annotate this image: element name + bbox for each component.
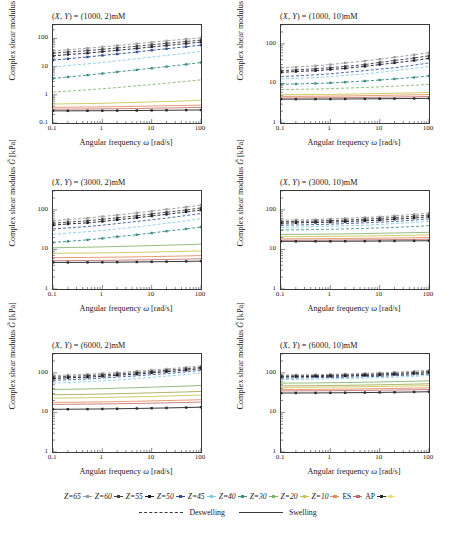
legend-linestyle-label: Deswelling [189,508,225,517]
series-line-Z30 [281,384,429,386]
chart-panel-top-left: (X, Y) = (1000, 2)mMComplex shear modulu… [0,4,228,166]
legend-item-Z65[interactable]: Z=65 [61,492,92,501]
series-line-Z40 [53,227,201,243]
series-marker [116,47,118,49]
series-line-AP [53,261,201,262]
series-marker [185,211,187,213]
series-marker [281,222,282,224]
series-marker [428,55,429,57]
series-marker [185,38,187,40]
series-marker [393,59,395,61]
series-line-Z40 [281,76,429,84]
series-marker [378,63,380,65]
legend-label: Z=45 [185,492,207,501]
series-marker [295,70,297,72]
series-marker [344,98,346,100]
series-line-Z40 [281,381,429,383]
series-marker [136,215,138,217]
series-marker [185,63,187,65]
series-marker [150,232,152,234]
series-marker [185,206,187,208]
legend-item-Z30[interactable]: Z=30 [247,492,278,501]
series-marker [378,240,380,242]
legend-item-Z20[interactable]: Z=20 [278,492,309,501]
x-tick-label: 0.1 [40,290,64,298]
series-marker [136,43,138,45]
series-marker [136,217,138,219]
series-marker [86,49,88,51]
x-tick-label: 10 [139,290,163,298]
series-marker [67,51,69,53]
x-axis-label: Angular frequency ω [rad/s] [52,304,200,313]
legend-item-Z60[interactable]: Z=60 [92,492,123,501]
series-marker [53,261,54,263]
series-marker [165,65,167,67]
legend-item-Z55[interactable]: Z=55 [123,492,154,501]
y-tick-label: 10 [254,78,276,86]
legend-label: Z=40 [216,492,238,501]
series-marker [428,216,429,218]
legend-item-Z50[interactable]: Z=50 [154,492,185,501]
legend-marker-icon [207,492,216,501]
series-marker [200,209,201,211]
legend-item-ES[interactable]: ES [339,492,362,501]
chart-panel-bottom-left: (X, Y) = (6000, 2)mMComplex shear modulu… [0,333,228,495]
series-marker [101,54,103,56]
x-axis-label: Angular frequency ω [rad/s] [280,138,428,147]
series-marker [295,222,297,224]
series-marker [101,46,103,48]
series-marker [150,213,152,215]
series-marker [67,261,69,263]
series-marker [53,77,54,79]
plot-area [52,190,202,290]
x-tick-label: 0.1 [268,453,292,461]
legend-label: Z=10 [309,492,331,501]
x-tick-label: 100 [416,290,440,298]
legend-linestyle-swelling[interactable]: Swelling [239,508,317,517]
series-marker [150,215,152,217]
series-line-Z50 [53,45,201,60]
series-marker [67,240,69,242]
series-line-Z30 [53,391,201,394]
series-marker [116,235,118,237]
series-marker [150,261,152,263]
series-marker [86,376,88,378]
series-marker [185,369,187,371]
series-marker [295,240,297,242]
legend-item-Z45[interactable]: Z=45 [185,492,216,501]
panel-title: (X, Y) = (6000, 10)mM [280,341,358,350]
series-line-Z30 [281,84,429,89]
series-marker [413,391,415,393]
legend-item[interactable] [386,492,395,501]
legend-linestyle-deswelling[interactable]: Deswelling [139,508,225,517]
series-marker [53,59,54,61]
series-line-Z10 [53,256,201,258]
y-tick-label: 100 [254,39,276,47]
series-marker [413,54,415,56]
series-marker [185,228,187,230]
series-marker [295,83,297,85]
x-tick-label: 10 [139,124,163,132]
series-marker [165,40,167,42]
series-marker [428,240,429,242]
series-marker [200,406,201,408]
series-marker [101,218,103,220]
legend-item-AP[interactable]: AP [362,492,386,501]
plot-area [280,190,430,290]
x-tick-label: 1 [317,124,341,132]
series-marker [136,373,138,375]
series-marker [200,109,201,111]
series-marker [200,61,201,63]
series-marker [101,50,103,52]
series-marker [344,240,346,242]
series-marker [329,82,331,84]
legend-item-Z10[interactable]: Z=10 [309,492,340,501]
y-tick-label: 10 [254,244,276,252]
chart-panel-bottom-right: (X, Y) = (6000, 10)mMComplex shear modul… [228,333,456,495]
legend-item-Z40[interactable]: Z=40 [216,492,247,501]
series-marker [136,261,138,263]
series-line-Z65 [281,53,429,68]
series-line-Z20 [53,395,201,398]
series-marker [200,260,201,262]
legend-marker-icon [330,492,339,501]
